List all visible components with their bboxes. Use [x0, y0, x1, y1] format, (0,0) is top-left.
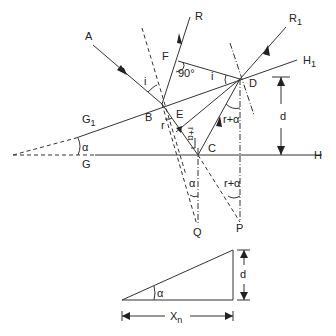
label-q: Q: [193, 226, 202, 238]
label-f: F: [162, 50, 169, 62]
label-g: G: [82, 158, 91, 170]
label-angle-r-alpha-e: r+α: [186, 127, 196, 140]
emergent-ray-dr1: [240, 27, 286, 79]
angle-r-alpha-arc-p: [228, 196, 240, 198]
label-h1: H1: [303, 54, 316, 69]
wedge-ray-diagram: A R R1 H1 H G1 G F B E C D Q P d i i 90°…: [0, 0, 336, 336]
incident-ray-ab: [93, 45, 162, 104]
label-r: R: [195, 10, 203, 22]
label-angle-r: r: [161, 119, 165, 131]
label-b: B: [145, 111, 152, 123]
inset-angle-label: α: [157, 287, 164, 299]
label-d: D: [249, 77, 257, 89]
angle-i-arc-d: [225, 75, 226, 84]
alpha-arc: [78, 138, 80, 155]
inset-triangle: α d Xn: [122, 250, 250, 325]
label-r1: R1: [289, 12, 302, 27]
normal-b-to-q: [162, 104, 197, 225]
inset-base-label: Xn: [170, 310, 182, 325]
label-e: E: [176, 108, 183, 120]
label-angle-r-alpha-d: r+α: [223, 113, 240, 125]
inset-height-label: d: [240, 268, 246, 280]
label-c: C: [208, 142, 216, 154]
angle-i-arc-b: [148, 85, 157, 92]
label-d-dim: d: [280, 110, 286, 122]
label-angle-i-b: i: [144, 75, 146, 87]
label-angle-r-alpha-p: r+α: [224, 177, 241, 189]
label-angle-alpha-q: α: [189, 177, 196, 189]
label-angle-alpha-wedge: α: [82, 141, 89, 153]
label-h: H: [314, 149, 322, 161]
angle-alpha-arc-q: [190, 195, 198, 197]
label-g1: G1: [82, 113, 96, 128]
label-p: P: [236, 222, 243, 234]
surface-g1h1: [13, 60, 297, 155]
label-a: A: [85, 30, 93, 42]
label-right-angle: 90°: [178, 67, 195, 79]
label-angle-i-d: i: [211, 70, 213, 82]
arrow-icon: [177, 33, 182, 44]
angle-r-alpha-arc-d: [226, 104, 240, 109]
